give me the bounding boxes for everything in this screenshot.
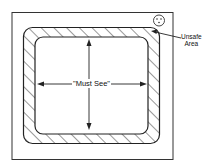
unsafe-label-line2: Area <box>181 40 202 47</box>
unsafe-area-label: Unsafe Area <box>181 33 202 47</box>
knob-icon <box>154 15 165 26</box>
unsafe-label-line1: Unsafe <box>181 33 202 40</box>
must-see-label: "Must See" <box>72 79 111 88</box>
